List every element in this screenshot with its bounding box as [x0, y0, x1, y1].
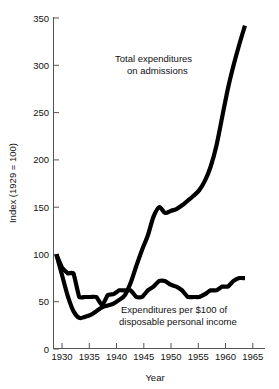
annotation-expenditures-per-100-line2: disposable personal income	[119, 316, 237, 327]
x-tick-label-1930: 1930	[51, 351, 72, 362]
x-tick-label-1960: 1960	[215, 351, 236, 362]
x-tick-label-1935: 1935	[79, 351, 100, 362]
y-tick-label-150: 150	[33, 202, 49, 213]
y-tick-label-300: 300	[33, 60, 49, 71]
x-tick-label-1950: 1950	[160, 351, 181, 362]
y-axis-title: Index (1929 = 100)	[7, 143, 18, 223]
annotation-total-expenditures-line2: on admissions	[127, 65, 188, 76]
annotation-total-expenditures-line1: Total expenditures	[115, 53, 192, 64]
y-tick-label-0: 0	[44, 344, 49, 355]
x-tick-label-1940: 1940	[106, 351, 127, 362]
chart-figure: 350 300 250 200 150 100 50 0 1930 1935 1…	[0, 0, 279, 389]
x-tick-label-1955: 1955	[188, 351, 209, 362]
line-chart-svg: 350 300 250 200 150 100 50 0 1930 1935 1…	[0, 0, 279, 389]
x-axis-title: Year	[145, 372, 164, 383]
y-tick-label-350: 350	[33, 13, 49, 24]
y-tick-label-100: 100	[33, 249, 49, 260]
annotation-expenditures-per-100-line1: Expenditures per $100 of	[121, 304, 228, 315]
y-tick-label-50: 50	[38, 296, 49, 307]
y-tick-label-200: 200	[33, 154, 49, 165]
y-tick-label-250: 250	[33, 107, 49, 118]
x-tick-label-1965: 1965	[242, 351, 263, 362]
x-tick-label-1945: 1945	[133, 351, 154, 362]
